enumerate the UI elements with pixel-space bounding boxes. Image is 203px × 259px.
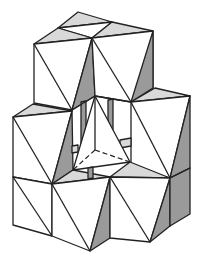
bottom-right-cube bbox=[110, 168, 190, 242]
top-left-upper-cube bbox=[34, 38, 95, 110]
left-middle-cube bbox=[13, 104, 73, 184]
stacked-cubes-diagram bbox=[0, 0, 203, 259]
cavity-light-block-left bbox=[72, 145, 78, 153]
bottom-small-dark-strip bbox=[88, 167, 93, 179]
bottom-left-cube bbox=[13, 177, 52, 236]
bottom-center-cube bbox=[52, 177, 110, 251]
top-right-upper-cube bbox=[92, 31, 153, 102]
right-middle-cube bbox=[131, 88, 190, 178]
